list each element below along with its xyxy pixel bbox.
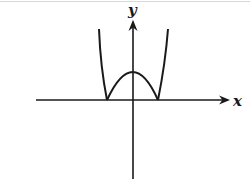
- graph: y x: [0, 0, 250, 181]
- curve-left-branch: [99, 29, 107, 100]
- curve-right-branch: [158, 29, 168, 100]
- y-axis-label: y: [127, 1, 138, 19]
- x-axis-label: x: [232, 92, 243, 110]
